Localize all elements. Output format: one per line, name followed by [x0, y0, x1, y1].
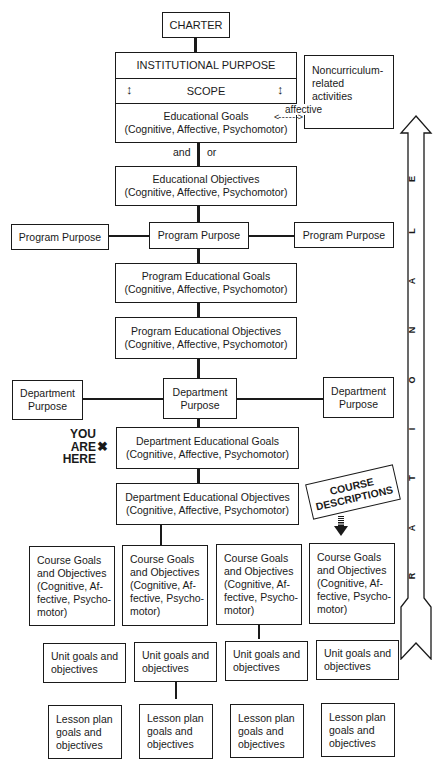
lesson-plan-line: Lesson plan: [238, 712, 295, 725]
unit-goals-box-4: Unit goals and objectives: [316, 640, 399, 680]
program-purpose-label: Program Purpose: [19, 231, 101, 244]
course-goals-line: Course Goals: [37, 554, 101, 567]
unit-goals-box-3: Unit goals and objectives: [225, 641, 308, 681]
unit-goals-line: objectives: [324, 660, 371, 673]
lesson-plan-line: Lesson plan: [56, 713, 113, 726]
course-goals-line: Course Goals: [130, 553, 194, 566]
connector: [197, 468, 200, 484]
rationale-letter: E: [407, 172, 417, 186]
program-purpose-label: Program Purpose: [158, 229, 240, 242]
department-objectives-box: Department Educational Objectives (Cogni…: [116, 483, 299, 525]
lesson-plan-line: Lesson plan: [147, 712, 204, 725]
program-purpose-right-box: Program Purpose: [294, 222, 394, 248]
unit-goals-line: Unit goals and: [142, 649, 209, 662]
course-goals-line: motor): [130, 605, 160, 618]
course-goals-line: (Cognitive, Af-: [317, 577, 383, 590]
course-descriptions-label: COURSE DESCRIPTIONS: [305, 464, 401, 519]
charter-label: CHARTER: [170, 19, 223, 32]
connector: [197, 248, 200, 264]
lesson-plan-line: objectives: [238, 738, 285, 751]
and-label: and: [173, 146, 191, 158]
course-goals-line: and Objectives: [224, 565, 293, 578]
course-goals-line: Course Goals: [317, 551, 381, 564]
rationale-letter: A: [407, 274, 417, 288]
course-goals-box-4: Course Goals and Objectives (Cognitive, …: [309, 543, 395, 624]
course-goals-line: Course Goals: [224, 552, 288, 565]
noncurriculum-line-1: Noncurriculum-: [312, 64, 383, 77]
unit-goals-line: Unit goals and: [51, 650, 118, 663]
lesson-plan-box-2: Lesson plan goals and objectives: [139, 704, 213, 759]
lesson-plan-line: objectives: [147, 738, 194, 751]
connector: [197, 302, 200, 318]
program-purpose-label: Program Purpose: [303, 229, 385, 242]
department-goals-box: Department Educational Goals (Cognitive,…: [116, 427, 299, 469]
program-goals-box: Program Educational Goals (Cognitive, Af…: [115, 263, 297, 303]
department-purpose-line-1: Department: [331, 385, 386, 398]
department-purpose-line-2: Purpose: [28, 400, 67, 413]
course-goals-line: motor): [224, 604, 254, 617]
lesson-plan-line: goals and: [238, 725, 284, 738]
you-are-here-line-3: HERE: [56, 453, 96, 466]
unit-goals-line: Unit goals and: [233, 648, 300, 661]
rationale-letter: L: [407, 224, 417, 238]
department-purpose-line-1: Department: [20, 387, 75, 400]
you-are-here-line-1: YOU: [56, 428, 96, 441]
department-objectives-title: Department Educational Objectives: [125, 491, 290, 504]
course-goals-line: fective, Psycho-: [130, 592, 204, 605]
rationale-letter: R: [407, 569, 417, 583]
program-objectives-sub: (Cognitive, Affective, Psychomotor): [124, 338, 287, 351]
you-are-here-marker: YOU ARE HERE: [56, 428, 96, 466]
rationale-letter: A: [407, 521, 417, 535]
educational-objectives-title: Educational Objectives: [153, 173, 260, 186]
course-goals-box-2: Course Goals and Objectives (Cognitive, …: [122, 545, 208, 626]
lesson-plan-line: objectives: [329, 737, 376, 750]
course-goals-box-3: Course Goals and Objectives (Cognitive, …: [216, 544, 302, 625]
course-goals-line: fective, Psycho-: [224, 591, 298, 604]
connector: [258, 623, 260, 639]
scope-box: SCOPE: [115, 78, 297, 104]
unit-goals-line: objectives: [142, 662, 189, 675]
connector: [107, 235, 150, 237]
course-goals-line: motor): [37, 606, 67, 619]
course-goals-line: fective, Psycho-: [37, 593, 111, 606]
connector: [82, 398, 164, 400]
course-goals-line: and Objectives: [37, 567, 106, 580]
lesson-plan-line: goals and: [329, 724, 375, 737]
connector: [160, 523, 162, 547]
lesson-plan-line: objectives: [56, 739, 103, 752]
affective-dashed-arrow-icon: <- - - - - ->: [274, 112, 302, 122]
educational-goals-title: Educational Goals: [163, 110, 248, 123]
department-purpose-line-1: Department: [173, 386, 228, 399]
course-goals-line: motor): [317, 603, 347, 616]
course-goals-line: (Cognitive, Af-: [37, 580, 103, 593]
educational-objectives-box: Educational Objectives (Cognitive, Affec…: [115, 166, 297, 206]
department-purpose-center-box: Department Purpose: [163, 378, 237, 419]
department-purpose-left-box: Department Purpose: [12, 380, 83, 420]
rationale-letter: T: [407, 471, 417, 485]
scope-label: SCOPE: [187, 85, 226, 98]
lesson-plan-box-4: Lesson plan goals and objectives: [321, 703, 395, 757]
educational-goals-box: Educational Goals (Cognitive, Affective,…: [115, 103, 297, 143]
connector: [236, 398, 324, 400]
program-purpose-center-box: Program Purpose: [149, 222, 249, 249]
rationale-letter: N: [407, 323, 417, 337]
educational-goals-sub: (Cognitive, Affective, Psychomotor): [124, 123, 287, 136]
program-purpose-left-box: Program Purpose: [11, 224, 109, 250]
course-goals-box-1: Course Goals and Objectives (Cognitive, …: [29, 546, 115, 626]
rationale-letter: I: [407, 422, 417, 436]
noncurriculum-line-2: related: [312, 77, 344, 90]
connector: [175, 681, 177, 699]
department-objectives-sub: (Cognitive, Affective, Psychomotor): [126, 504, 289, 517]
x-mark-icon: ✖: [97, 439, 108, 454]
unit-goals-line: Unit goals and: [324, 647, 391, 660]
program-objectives-box: Program Educational Objectives (Cognitiv…: [115, 317, 297, 359]
lesson-plan-box-1: Lesson plan goals and objectives: [48, 705, 122, 759]
charter-box: CHARTER: [162, 12, 230, 38]
program-goals-sub: (Cognitive, Affective, Psychomotor): [124, 283, 287, 296]
department-goals-sub: (Cognitive, Affective, Psychomotor): [126, 448, 289, 461]
scope-arrow-right-icon: ↕: [277, 82, 284, 97]
department-purpose-right-box: Department Purpose: [323, 377, 394, 418]
unit-goals-line: objectives: [51, 663, 98, 676]
course-goals-line: and Objectives: [317, 564, 386, 577]
down-arrow-icon: [334, 516, 348, 536]
